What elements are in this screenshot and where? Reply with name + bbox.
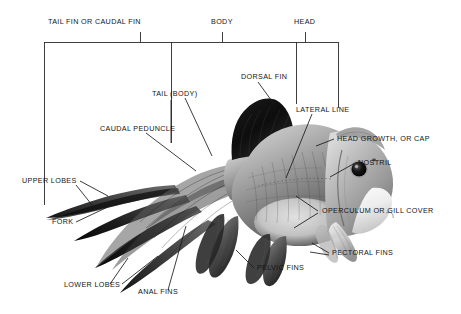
callout-label-lateral-line: LATERAL LINE [296, 106, 349, 113]
diagram-svg [0, 0, 461, 314]
callout-label-lower-lobes: LOWER LOBES [64, 281, 120, 288]
callout-label-dorsal-fin: DORSAL FIN [241, 73, 287, 80]
callout-label-pectoral-fins: PECTORAL FINS [332, 249, 393, 256]
callout-label-operculum: OPERCULUM OR GILL COVER [322, 207, 434, 214]
callout-label-head-growth-cap: HEAD GROWTH, OR CAP [337, 135, 430, 142]
goldfish-photo [46, 98, 393, 300]
callout-label-upper-lobes: UPPER LOBES [22, 177, 77, 184]
callout-label-caudal-peduncle: CAUDAL PEDUNCLE [100, 125, 175, 132]
bracket-label-tail-fin: TAIL FIN OR CAUDAL FIN [48, 18, 141, 25]
callout-label-nostril: NOSTRIL [358, 159, 392, 166]
callout-label-tail-body: TAIL (BODY) [152, 90, 197, 97]
bracket-label-body: BODY [211, 18, 233, 25]
callout-label-pelvic-fins: PELVIC FINS [257, 264, 304, 271]
diagram-canvas: TAIL FIN OR CAUDAL FIN BODY HEAD TAIL (B… [0, 0, 461, 314]
callout-label-anal-fins: ANAL FINS [138, 288, 178, 295]
bracket-label-head: HEAD [294, 18, 315, 25]
callout-label-fork: FORK [52, 218, 73, 225]
